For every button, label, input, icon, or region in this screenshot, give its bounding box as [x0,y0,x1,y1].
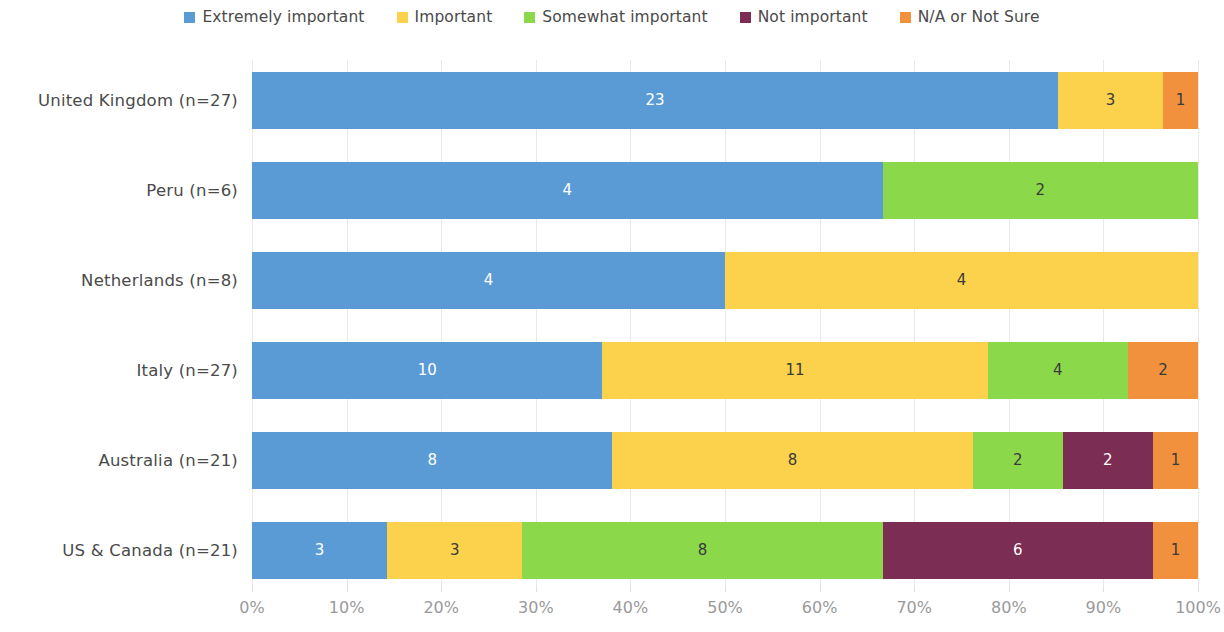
bar-segment-value: 4 [957,273,967,288]
y-axis-label: United Kingdom (n=27) [0,72,238,129]
bar-segment-value: 8 [788,453,798,468]
x-tick-mark [252,586,253,592]
bar-segment-value: 11 [786,363,805,378]
x-tick-mark [536,586,537,592]
legend-item[interactable]: Not important [740,8,868,26]
bar-segment[interactable]: 8 [252,432,612,489]
bar-row: 44 [252,252,1198,309]
x-axis-tick-label: 0% [239,598,264,617]
bar-segment[interactable]: 2 [1063,432,1153,489]
chart-legend: Extremely importantImportantSomewhat imp… [0,0,1224,34]
x-axis-tick-label: 10% [329,598,365,617]
x-axis-tick-label: 30% [518,598,554,617]
gridline [1009,60,1010,592]
stacked-bar-chart: Extremely importantImportantSomewhat imp… [0,0,1224,632]
x-tick-mark [914,586,915,592]
legend-item-label: N/A or Not Sure [918,8,1040,26]
gridline [725,60,726,592]
x-axis-tick-label: 40% [613,598,649,617]
bar-segment[interactable]: 4 [252,252,725,309]
bar-segment[interactable]: 10 [252,342,602,399]
bar-segment[interactable]: 11 [602,342,987,399]
gridline [536,60,537,592]
x-axis-tick-label: 90% [1086,598,1122,617]
x-tick-mark [1009,586,1010,592]
x-axis-tick-label: 50% [707,598,743,617]
bar-segment[interactable]: 4 [725,252,1198,309]
gridline [914,60,915,592]
stacked-bar: 101142 [252,342,1198,399]
gridline [1103,60,1104,592]
gridline [1198,60,1199,592]
bar-segment-value: 4 [563,183,573,198]
gridline [630,60,631,592]
legend-swatch-icon [900,12,911,23]
stacked-bar: 42 [252,162,1198,219]
bar-segment[interactable]: 3 [1058,72,1163,129]
gridlines [252,60,1198,592]
legend-item-label: Not important [758,8,868,26]
plot-area: 233142441011428822133861 [252,60,1198,592]
legend-swatch-icon [184,12,195,23]
bar-segment[interactable]: 8 [522,522,882,579]
gridline [347,60,348,592]
x-tick-mark [1103,586,1104,592]
bar-segment[interactable]: 1 [1153,432,1198,489]
bar-segment[interactable]: 4 [988,342,1128,399]
bar-segment[interactable]: 3 [252,522,387,579]
legend-item[interactable]: Extremely important [184,8,364,26]
bar-segment-value: 2 [1013,453,1023,468]
bar-segment-value: 1 [1171,543,1181,558]
bar-row: 33861 [252,522,1198,579]
legend-item[interactable]: N/A or Not Sure [900,8,1040,26]
bar-segment[interactable]: 2 [1128,342,1198,399]
bar-segment[interactable]: 2 [973,432,1063,489]
y-axis-label: Italy (n=27) [0,342,238,399]
bar-segment[interactable]: 1 [1163,72,1198,129]
x-tick-mark [441,586,442,592]
x-tick-mark [1198,586,1199,592]
x-axis-tick-label: 60% [802,598,838,617]
bar-row: 2331 [252,72,1198,129]
legend-item[interactable]: Important [397,8,493,26]
bar-segment-value: 23 [645,93,664,108]
y-axis-label: US & Canada (n=21) [0,522,238,579]
legend-swatch-icon [397,12,408,23]
bar-segment-value: 1 [1176,93,1186,108]
bar-segment-value: 4 [484,273,494,288]
bar-segment-value: 3 [315,543,325,558]
x-tick-mark [347,586,348,592]
bar-segment-value: 6 [1013,543,1023,558]
bar-segment-value: 2 [1036,183,1046,198]
y-axis-label: Australia (n=21) [0,432,238,489]
bar-segment[interactable]: 8 [612,432,972,489]
legend-swatch-icon [524,12,535,23]
bar-segment-value: 1 [1171,453,1181,468]
bar-segment[interactable]: 1 [1153,522,1198,579]
stacked-bar: 33861 [252,522,1198,579]
x-tick-mark [820,586,821,592]
x-axis: 0%10%20%30%40%50%60%70%80%90%100% [252,592,1198,622]
gridline [820,60,821,592]
x-tick-mark [725,586,726,592]
legend-item[interactable]: Somewhat important [524,8,707,26]
bar-segment[interactable]: 2 [883,162,1198,219]
legend-item-label: Somewhat important [542,8,707,26]
y-axis-label: Peru (n=6) [0,162,238,219]
stacked-bar: 88221 [252,432,1198,489]
stacked-bar: 2331 [252,72,1198,129]
gridline [441,60,442,592]
legend-item-label: Extremely important [202,8,364,26]
bar-segment-value: 8 [698,543,708,558]
bar-segment-value: 10 [418,363,437,378]
bar-segment[interactable]: 3 [387,522,522,579]
bar-segment-value: 3 [450,543,460,558]
bar-row: 88221 [252,432,1198,489]
bar-segment[interactable]: 6 [883,522,1153,579]
x-tick-mark [630,586,631,592]
x-axis-tick-label: 80% [991,598,1027,617]
bar-segment[interactable]: 23 [252,72,1058,129]
x-axis-tick-label: 100% [1175,598,1221,617]
x-axis-tick-label: 20% [423,598,459,617]
bar-segment[interactable]: 4 [252,162,883,219]
